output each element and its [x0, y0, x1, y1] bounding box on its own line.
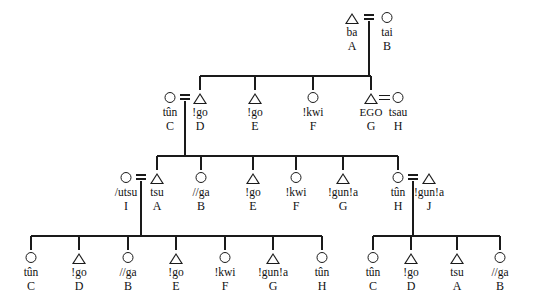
- person-g3-gunla[interactable]: !gun!aG: [328, 172, 358, 213]
- person-id-label: A: [443, 279, 471, 293]
- person-id-label: E: [241, 119, 269, 133]
- person-kin-term: tûn: [156, 106, 184, 119]
- male-symbol-icon: [450, 253, 464, 264]
- female-symbol-icon: [26, 252, 37, 263]
- female-symbol-icon: [196, 172, 207, 183]
- person-g4-go-d2[interactable]: !goD: [397, 252, 425, 293]
- person-symbol: [299, 92, 327, 106]
- person-id-label: A: [143, 199, 171, 213]
- person-g3-go[interactable]: !goE: [239, 172, 267, 213]
- person-kin-term: !kwi: [299, 106, 327, 119]
- person-g2-kwi[interactable]: !kwiF: [299, 92, 327, 133]
- person-g3-kwi[interactable]: !kwiF: [282, 172, 310, 213]
- person-kin-term: tsu: [443, 266, 471, 279]
- person-g2-ego[interactable]: EGOG: [357, 92, 385, 133]
- person-symbol: [162, 252, 190, 266]
- person-symbol: [357, 92, 385, 106]
- person-g4-tsu-a[interactable]: tsuA: [443, 252, 471, 293]
- person-kin-term: //ga: [114, 266, 142, 279]
- person-id-label: E: [162, 279, 190, 293]
- person-kin-term: !go: [65, 266, 93, 279]
- person-g4-ga-b[interactable]: //gaB: [114, 252, 142, 293]
- person-kin-term: !kwi: [211, 266, 239, 279]
- person-symbol: [241, 92, 269, 106]
- person-g4-ga-b2[interactable]: //gaB: [486, 252, 514, 293]
- person-kin-term: !gun!a: [258, 266, 288, 279]
- person-kin-term: /utsu: [112, 186, 140, 199]
- person-g3-tun[interactable]: tûnH: [384, 172, 412, 213]
- person-id-label: J: [414, 199, 444, 213]
- person-g2-tun[interactable]: tûnC: [156, 92, 184, 133]
- person-kin-term: //ga: [486, 266, 514, 279]
- person-id-label: E: [239, 199, 267, 213]
- person-g3-gunlaj[interactable]: !gun!aJ: [414, 172, 444, 213]
- person-symbol: [443, 252, 471, 266]
- person-kin-term: !gun!a: [414, 186, 444, 199]
- person-g1-ba[interactable]: baA: [338, 12, 366, 53]
- male-symbol-icon: [422, 173, 436, 184]
- person-id-label: F: [282, 199, 310, 213]
- person-id-label: C: [359, 279, 387, 293]
- person-id-label: B: [486, 279, 514, 293]
- person-symbol: [259, 252, 287, 266]
- person-symbol: [308, 252, 336, 266]
- person-symbol: [17, 252, 45, 266]
- person-kin-term: //ga: [187, 186, 215, 199]
- person-kin-term: tûn: [384, 186, 412, 199]
- person-kin-term: tûn: [359, 266, 387, 279]
- person-id-label: D: [65, 279, 93, 293]
- person-g2-tsau[interactable]: tsauH: [384, 92, 412, 133]
- person-symbol: [186, 92, 214, 106]
- female-symbol-icon: [220, 252, 231, 263]
- person-kin-term: EGO: [357, 106, 385, 119]
- person-g2-go-e[interactable]: !goE: [241, 92, 269, 133]
- person-symbol: [373, 12, 401, 26]
- person-symbol: [187, 172, 215, 186]
- person-g3-ga[interactable]: //gaB: [187, 172, 215, 213]
- person-symbol: [211, 252, 239, 266]
- person-id-label: C: [156, 119, 184, 133]
- person-kin-term: tsau: [384, 106, 412, 119]
- person-g4-kwi-f[interactable]: !kwiF: [211, 252, 239, 293]
- person-symbol: [239, 172, 267, 186]
- person-id-label: C: [17, 279, 45, 293]
- person-symbol: [338, 12, 366, 26]
- person-id-label: H: [384, 199, 412, 213]
- person-id-label: G: [258, 279, 288, 293]
- person-symbol: [282, 172, 310, 186]
- person-g4-tun-h[interactable]: tûnH: [308, 252, 336, 293]
- person-id-label: F: [299, 119, 327, 133]
- person-symbol: [415, 172, 443, 186]
- person-id-label: B: [187, 199, 215, 213]
- person-id-label: G: [357, 119, 385, 133]
- person-g4-go-d[interactable]: !goD: [65, 252, 93, 293]
- person-symbol: [65, 252, 93, 266]
- person-id-label: G: [328, 199, 358, 213]
- person-kin-term: !go: [397, 266, 425, 279]
- person-g3-tsu[interactable]: tsuA: [143, 172, 171, 213]
- person-id-label: I: [112, 199, 140, 213]
- person-symbol: [112, 172, 140, 186]
- female-symbol-icon: [317, 252, 328, 263]
- person-g2-go-d[interactable]: !goD: [186, 92, 214, 133]
- female-symbol-icon: [308, 92, 319, 103]
- male-symbol-icon: [169, 253, 183, 264]
- person-kin-term: tsu: [143, 186, 171, 199]
- male-symbol-icon: [345, 13, 359, 24]
- female-symbol-icon: [495, 252, 506, 263]
- male-symbol-icon: [364, 93, 378, 104]
- person-kin-term: !go: [162, 266, 190, 279]
- person-g1-tai[interactable]: taiB: [373, 12, 401, 53]
- person-id-label: H: [384, 119, 412, 133]
- person-kin-term: !gun!a: [328, 186, 358, 199]
- person-g4-tun-c[interactable]: tûnC: [17, 252, 45, 293]
- person-symbol: [384, 92, 412, 106]
- person-g3-utsu[interactable]: /utsuI: [112, 172, 140, 213]
- person-g4-tun-c2[interactable]: tûnC: [359, 252, 387, 293]
- female-symbol-icon: [123, 252, 134, 263]
- person-g4-go-e[interactable]: !goE: [162, 252, 190, 293]
- person-g4-gunla-g[interactable]: !gun!aG: [258, 252, 288, 293]
- person-id-label: B: [373, 39, 401, 53]
- person-symbol: [359, 252, 387, 266]
- person-kin-term: ba: [338, 26, 366, 39]
